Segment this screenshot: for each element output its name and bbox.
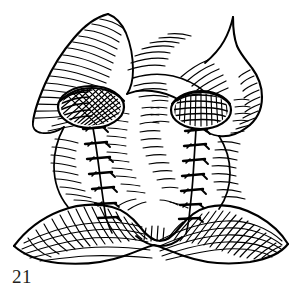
figure-caption-number: 21: [12, 266, 32, 288]
figure-page: 21: [0, 0, 296, 294]
figure-illustration: [0, 0, 296, 294]
